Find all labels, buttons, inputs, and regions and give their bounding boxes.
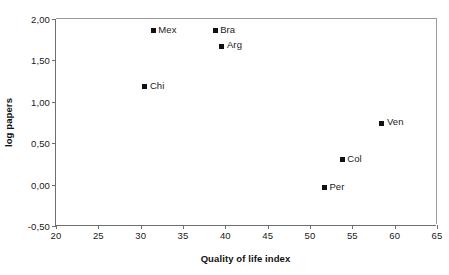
data-point-label: Chi [150,80,165,91]
x-tick-mark [395,225,396,229]
data-point-marker [219,44,224,49]
x-tick-mark [268,225,269,229]
data-point-marker [379,121,384,126]
y-tick-mark [52,102,56,103]
y-tick-mark [52,60,56,61]
x-tick-label: 50 [305,230,316,241]
x-tick-label: 30 [135,230,146,241]
y-axis-title-text: log papers [4,98,15,147]
data-point-label: Col [347,153,362,164]
plot-top-border [56,18,436,19]
scatter-chart-figure: -0,500,000,501,001,502,00 20253035404550… [0,0,449,275]
x-tick-label: 65 [432,230,443,241]
x-tick-label: 25 [93,230,104,241]
y-tick-mark [52,143,56,144]
x-tick-label: 40 [220,230,231,241]
x-tick-label: 60 [389,230,400,241]
data-point-marker [340,157,345,162]
plot-area: -0,500,000,501,001,502,00 20253035404550… [55,19,436,226]
data-point-marker [322,185,327,190]
x-tick-mark [310,225,311,229]
x-tick-mark [225,225,226,229]
y-tick-label: 1,00 [31,96,50,107]
y-tick-label: -0,50 [28,221,50,232]
plot-right-border [436,18,437,224]
x-tick-mark [56,225,57,229]
y-tick-label: 0,50 [31,138,50,149]
y-tick-mark [52,185,56,186]
data-point-marker [213,28,218,33]
x-tick-mark [183,225,184,229]
data-point-label: Arg [227,39,242,50]
data-point-marker [142,84,147,89]
y-tick-mark [52,19,56,20]
x-tick-mark [352,225,353,229]
x-tick-label: 55 [347,230,358,241]
x-tick-label: 35 [178,230,189,241]
data-point-label: Mex [158,24,176,35]
x-tick-label: 20 [51,230,62,241]
data-point-marker [151,28,156,33]
data-point-label: Bra [220,24,235,35]
y-tick-label: 1,50 [31,55,50,66]
x-tick-mark [98,225,99,229]
data-point-label: Ven [387,116,404,127]
x-tick-label: 45 [262,230,273,241]
y-tick-label: 0,00 [31,179,50,190]
x-axis-title: Quality of life index [55,253,436,264]
y-axis-title: log papers [2,19,16,226]
x-tick-mark [141,225,142,229]
y-tick-label: 2,00 [31,14,50,25]
x-tick-mark [437,225,438,229]
data-point-label: Per [329,181,344,192]
